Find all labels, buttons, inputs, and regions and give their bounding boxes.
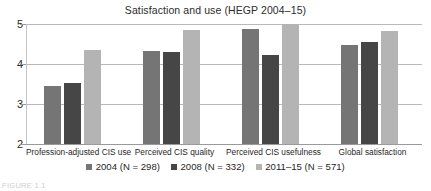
- bar-chart-figure: Satisfaction and use (HEGP 2004–15) Prof…: [0, 0, 431, 191]
- bar-group: [26, 24, 125, 144]
- x-axis-category-label: Profession-adjusted CIS use: [26, 147, 125, 157]
- legend-label: 2004 (N = 298): [96, 161, 160, 173]
- page-caption-fragment: FIGURE 1.1: [2, 181, 46, 190]
- y-tick-mark-2: [20, 144, 26, 145]
- legend-swatch-icon: [86, 164, 92, 170]
- gridline-y-2: [26, 144, 422, 145]
- legend-label: 2011–15 (N = 571): [265, 161, 345, 173]
- legend-swatch-icon: [171, 164, 177, 170]
- bar[interactable]: [242, 29, 260, 144]
- bar-group: [323, 24, 422, 144]
- bar[interactable]: [44, 86, 62, 144]
- bar[interactable]: [282, 24, 300, 144]
- bar[interactable]: [361, 42, 379, 144]
- y-tick-mark-5: [20, 24, 26, 25]
- bar-group: [224, 24, 323, 144]
- bar[interactable]: [381, 31, 399, 144]
- legend-swatch-icon: [256, 164, 262, 170]
- bar-group: [125, 24, 224, 144]
- bar[interactable]: [64, 83, 82, 144]
- legend-label: 2008 (N = 332): [180, 161, 244, 173]
- bar[interactable]: [84, 50, 102, 144]
- bar[interactable]: [262, 55, 280, 144]
- chart-title: Satisfaction and use (HEGP 2004–15): [0, 4, 431, 17]
- chart-legend: 2004 (N = 298)2008 (N = 332)2011–15 (N =…: [0, 161, 431, 173]
- legend-item[interactable]: 2011–15 (N = 571): [256, 161, 345, 173]
- y-tick-mark-4: [20, 64, 26, 65]
- bar[interactable]: [163, 52, 181, 144]
- bar[interactable]: [183, 30, 201, 144]
- y-tick-mark-3: [20, 104, 26, 105]
- bar[interactable]: [341, 45, 359, 144]
- legend-item[interactable]: 2008 (N = 332): [171, 161, 245, 173]
- plot-area: [26, 24, 422, 144]
- legend-item[interactable]: 2004 (N = 298): [86, 161, 160, 173]
- x-axis-category-label: Global satisfaction: [323, 147, 422, 157]
- x-axis-category-label: Perceived CIS quality: [125, 147, 224, 157]
- bar[interactable]: [143, 51, 161, 144]
- x-axis-category-label: Perceived CIS usefulness: [224, 147, 323, 157]
